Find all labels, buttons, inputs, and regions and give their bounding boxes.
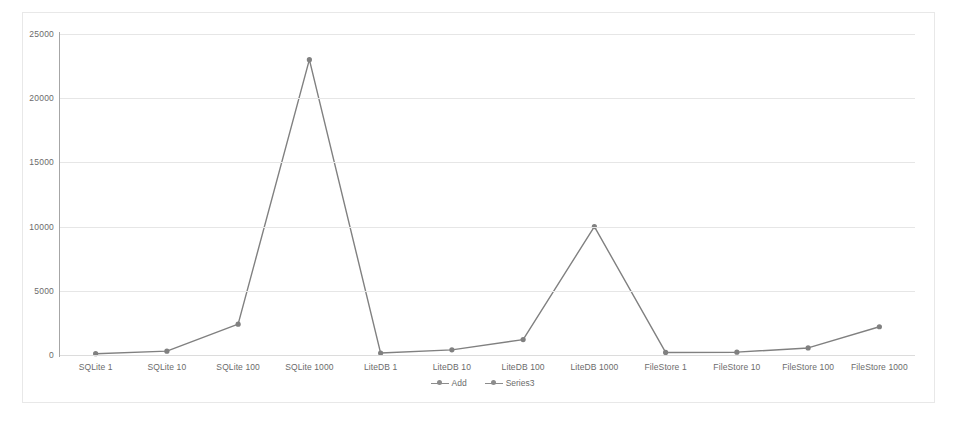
legend-marker-icon	[485, 379, 503, 388]
x-tick-label: SQLite 1000	[285, 362, 333, 372]
x-tick-label: LiteDB 10	[433, 362, 471, 372]
x-tick-label: LiteDB 100	[502, 362, 545, 372]
x-tick-label: FileStore 1	[645, 362, 687, 372]
y-tick-label: 20000	[29, 93, 54, 103]
legend-marker-icon	[431, 379, 449, 388]
data-point-marker	[164, 349, 169, 354]
gridline	[60, 98, 915, 99]
gridline	[60, 355, 915, 356]
line-chart: 0500010000150002000025000 AddSeries3 SQL…	[0, 0, 965, 424]
x-tick-label: FileStore 100	[782, 362, 834, 372]
legend-item-add[interactable]: Add	[431, 378, 467, 388]
y-axis-labels: 0500010000150002000025000	[0, 0, 54, 424]
data-point-marker	[877, 324, 882, 329]
data-point-marker	[307, 57, 312, 62]
x-tick-label: FileStore 10	[713, 362, 760, 372]
y-tick-label: 0	[49, 350, 54, 360]
gridline	[60, 227, 915, 228]
legend-item-series3[interactable]: Series3	[485, 378, 535, 388]
series-add-line	[60, 34, 915, 355]
x-tick-label: FileStore 1000	[851, 362, 908, 372]
data-point-marker	[734, 350, 739, 355]
chart-legend: AddSeries3	[0, 378, 965, 388]
y-tick-label: 10000	[29, 222, 54, 232]
y-tick-label: 25000	[29, 29, 54, 39]
y-tick-label: 5000	[34, 286, 54, 296]
data-point-marker	[449, 347, 454, 352]
data-point-marker	[236, 322, 241, 327]
x-tick-label: SQLite 10	[148, 362, 187, 372]
legend-label: Add	[452, 378, 467, 388]
plot-area	[60, 34, 915, 355]
x-tick-label: SQLite 1	[79, 362, 113, 372]
data-point-marker	[521, 337, 526, 342]
x-tick-label: SQLite 100	[216, 362, 260, 372]
gridline	[60, 34, 915, 35]
x-tick-label: LiteDB 1000	[570, 362, 618, 372]
y-tick-label: 15000	[29, 157, 54, 167]
data-point-marker	[806, 345, 811, 350]
gridline	[60, 162, 915, 163]
legend-label: Series3	[506, 378, 535, 388]
gridline	[60, 291, 915, 292]
x-tick-label: LiteDB 1	[364, 362, 397, 372]
series-line-add	[96, 60, 880, 354]
